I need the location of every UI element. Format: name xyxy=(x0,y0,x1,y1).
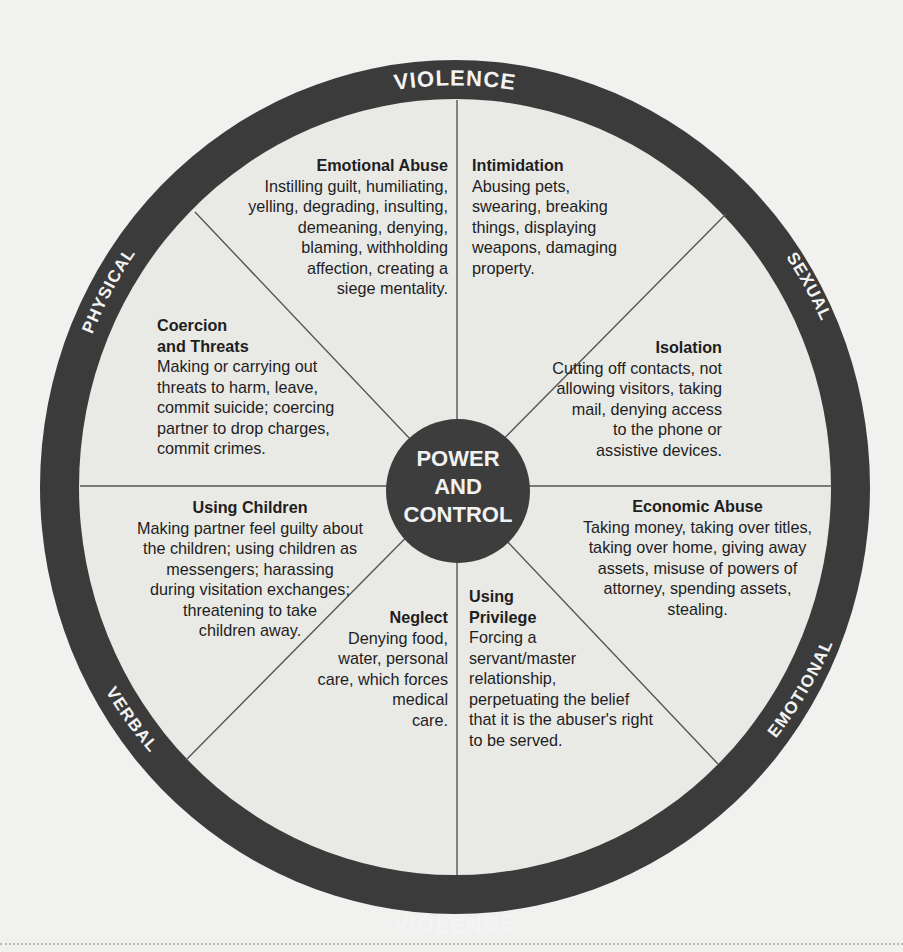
segment-intimidation: Intimidation Abusing pets, swearing, bre… xyxy=(472,155,652,278)
segment-title: Isolation xyxy=(492,337,722,358)
segment-using-privilege: Using Privilege Forcing a servant/master… xyxy=(469,586,699,750)
segment-title: Using Privilege xyxy=(469,586,699,627)
power-and-control-wheel: VIOLENCE VIOLENCE PHYSICAL SEXUAL VERBAL… xyxy=(0,0,903,952)
segment-title: Coercion and Threats xyxy=(157,315,377,356)
segment-title: Using Children xyxy=(110,497,390,518)
segment-description: Making or carrying out threats to harm, … xyxy=(157,356,377,459)
segment-coercion-and-threats: Coercion and Threats Making or carrying … xyxy=(157,315,377,459)
segment-using-children: Using Children Making partner feel guilt… xyxy=(110,497,390,641)
segment-emotional-abuse: Emotional Abuse Instilling guilt, humili… xyxy=(188,155,448,299)
segment-description: Denying food, water, personal care, whic… xyxy=(288,628,448,731)
segment-isolation: Isolation Cutting off contacts, not allo… xyxy=(492,337,722,460)
segment-description: Cutting off contacts, not allowing visit… xyxy=(492,358,722,461)
segment-title: Economic Abuse xyxy=(565,496,830,517)
segment-description: Abusing pets, swearing, breaking things,… xyxy=(472,176,652,279)
hub-label-and: AND xyxy=(434,474,482,499)
segment-title: Emotional Abuse xyxy=(188,155,448,176)
segment-description: Forcing a servant/master relationship, p… xyxy=(469,627,699,750)
hub-label-control: CONTROL xyxy=(404,502,513,527)
segment-description: Instilling guilt, humiliating, yelling, … xyxy=(188,176,448,299)
hub-label-power: POWER xyxy=(416,446,499,471)
page-divider xyxy=(0,943,903,945)
segment-description: Making partner feel guilty about the chi… xyxy=(110,518,390,641)
segment-title: Intimidation xyxy=(472,155,652,176)
